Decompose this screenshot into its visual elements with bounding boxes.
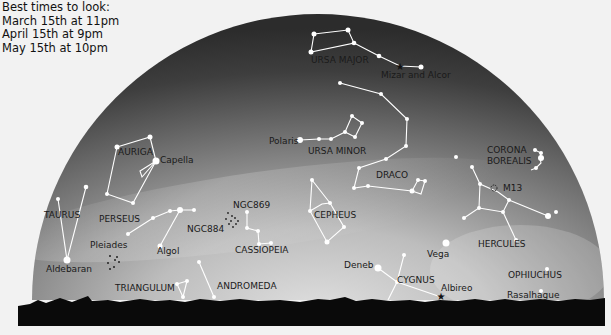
deneb-star: [375, 265, 382, 272]
label-triangulum: TRIANGULUM: [114, 283, 175, 293]
label-ophiuchus: OPHIUCHUS: [508, 270, 562, 280]
label-rasalhague: Rasalhague: [507, 290, 560, 300]
label-ngc869: NGC869: [233, 200, 270, 210]
label-corona-borealis: CORONABOREALIS: [487, 145, 532, 166]
label-pleiades: Pleiades: [90, 240, 128, 250]
vega-star: [443, 240, 450, 247]
label-cassiopeia: CASSIOPEIA: [235, 245, 289, 255]
label-capella: Capella: [160, 155, 194, 165]
label-hercules: HERCULES: [478, 239, 526, 249]
horizon-silhouette: [18, 296, 605, 326]
label-albireo: Albireo: [441, 283, 473, 293]
label-aldebaran: Aldebaran: [46, 264, 92, 274]
label-m13: M13: [503, 183, 522, 193]
label-ursa-major: URSA MAJOR: [311, 55, 369, 65]
label-ursa-minor: URSA MINOR: [308, 146, 366, 156]
capella-star: [153, 158, 160, 165]
label-polaris: Polaris: [269, 136, 299, 146]
label-mizar-alcor: Mizar and Alcor: [381, 70, 451, 80]
aldebaran-star: [64, 257, 71, 264]
label-algol: Algol: [157, 246, 179, 256]
label-auriga: AURIGA: [118, 147, 154, 157]
label-vega: Vega: [427, 249, 449, 259]
label-perseus: PERSEUS: [99, 214, 140, 224]
label-cepheus: CEPHEUS: [314, 210, 356, 220]
label-deneb: Deneb: [344, 260, 374, 270]
label-draco: DRACO: [376, 170, 408, 180]
star-chart: ★ ★ URSA MAJORURSA MINORAURIGADRACO CORO…: [0, 0, 611, 335]
label-cygnus: CYGNUS: [397, 275, 435, 285]
label-ngc884: NGC884: [187, 224, 224, 234]
label-taurus: TAURUS: [43, 210, 80, 220]
label-andromeda: ANDROMEDA: [217, 281, 277, 291]
